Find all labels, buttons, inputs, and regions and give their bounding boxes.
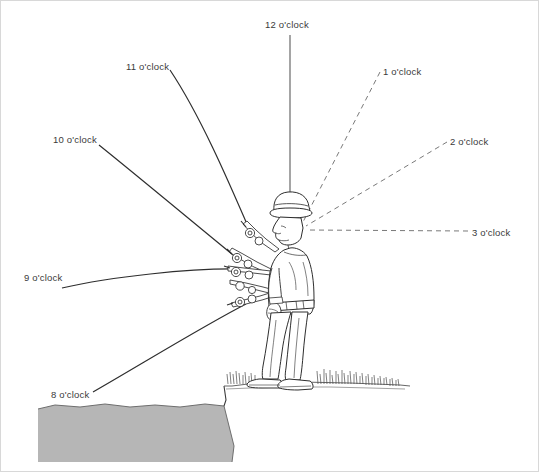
diagram-illustration bbox=[0, 0, 539, 472]
water-region bbox=[38, 404, 234, 462]
label-2-oclock: 2 o'clock bbox=[450, 136, 488, 147]
angler-hat bbox=[270, 192, 312, 218]
ray-line-1 bbox=[303, 72, 380, 222]
angler-figure bbox=[247, 192, 314, 390]
ray-line-11 bbox=[170, 70, 250, 231]
label-8-oclock: 8 o'clock bbox=[51, 389, 89, 400]
label-10-oclock: 10 o'clock bbox=[53, 134, 97, 145]
label-9-oclock: 9 o'clock bbox=[24, 272, 62, 283]
label-1-oclock: 1 o'clock bbox=[383, 66, 421, 77]
bank-edge bbox=[224, 386, 226, 406]
ray-lines bbox=[62, 35, 468, 392]
label-11-oclock: 11 o'clock bbox=[126, 61, 169, 72]
ray-line-8 bbox=[93, 304, 246, 392]
water-fill bbox=[38, 404, 234, 462]
ray-line-3 bbox=[307, 230, 468, 231]
ray-line-2 bbox=[306, 142, 447, 226]
page-border bbox=[1, 1, 539, 472]
angler-legs bbox=[262, 312, 308, 380]
label-3-oclock: 3 o'clock bbox=[472, 227, 510, 238]
figure-container: 12 o'clock 1 o'clock 2 o'clock 3 o'clock… bbox=[0, 0, 539, 472]
rod-assembly-11 bbox=[241, 221, 279, 252]
angler-shoes bbox=[247, 379, 313, 390]
ray-line-10 bbox=[99, 145, 238, 259]
ray-line-9 bbox=[62, 269, 240, 288]
label-12-oclock: 12 o'clock bbox=[265, 19, 309, 30]
